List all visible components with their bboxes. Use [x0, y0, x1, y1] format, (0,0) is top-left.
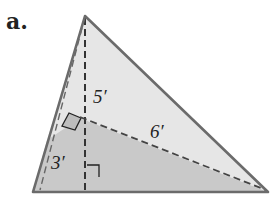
- three-label: 3′: [50, 152, 66, 173]
- triangle-diagram: 5′ 6′ 3′: [0, 0, 273, 203]
- six-label: 6′: [150, 121, 165, 142]
- height-label: 5′: [93, 86, 108, 107]
